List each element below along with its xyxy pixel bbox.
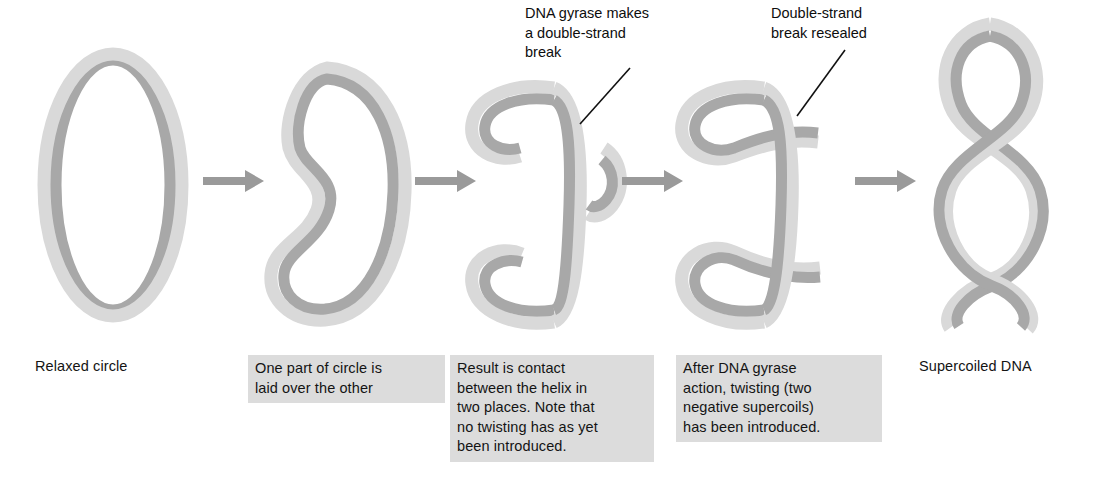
arrow-icon bbox=[855, 168, 917, 194]
twisted-supercoil-shape bbox=[928, 14, 1063, 334]
s-curve-loop-shape bbox=[255, 62, 410, 327]
lower-left-lobe bbox=[682, 248, 820, 323]
caption-contact-two-places: Result is contact between the helix in t… bbox=[450, 355, 654, 462]
stage-supercoiled-dna bbox=[928, 14, 1063, 334]
dna-supercoiling-figure: DNA gyrase makes a double-strand break D… bbox=[0, 0, 1093, 481]
ribbon-dark-edge bbox=[284, 79, 393, 309]
gyrase-break-annotation: DNA gyrase makes a double-strand break bbox=[525, 4, 725, 63]
break-resealed-annotation: Double-strand break resealed bbox=[771, 4, 941, 43]
ribbon-light-edge bbox=[271, 68, 405, 320]
lower-left-lobe bbox=[472, 251, 554, 323]
caption-one-part-over-other: One part of circle is laid over the othe… bbox=[248, 355, 445, 403]
ellipse-ribbon-shape bbox=[28, 48, 198, 323]
stage-s-curve-loop bbox=[255, 62, 410, 327]
caption-supercoiled-dna: Supercoiled DNA bbox=[919, 357, 1089, 377]
central-strand bbox=[764, 88, 792, 322]
stage-relaxed-circle bbox=[28, 48, 198, 323]
arrow-4 bbox=[855, 168, 917, 198]
ribbon-dark-edge bbox=[55, 59, 171, 311]
upper-left-lobe bbox=[472, 87, 554, 159]
gyrase-break-leader-line bbox=[576, 66, 636, 128]
ribbon-light-edge bbox=[44, 54, 182, 316]
caption-gyrase-action-twisted: After DNA gyrase action, twisting (two n… bbox=[676, 355, 882, 442]
detached-break-fragment bbox=[588, 148, 620, 216]
caption-relaxed-circle: Relaxed circle bbox=[35, 357, 195, 377]
break-resealed-leader-line bbox=[793, 48, 853, 120]
